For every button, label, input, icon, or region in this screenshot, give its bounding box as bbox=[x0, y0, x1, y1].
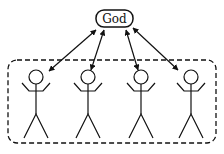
arrow-1 bbox=[49, 30, 96, 71]
person-2-icon bbox=[74, 70, 102, 138]
arrow-3 bbox=[126, 30, 138, 70]
god-node: God bbox=[96, 10, 133, 27]
god-people-diagram: God bbox=[0, 0, 224, 154]
arrow-2 bbox=[91, 30, 104, 70]
person-1-icon bbox=[22, 70, 50, 138]
person-4-icon bbox=[177, 70, 205, 138]
god-label: God bbox=[102, 12, 127, 26]
relationship-arrows bbox=[49, 28, 178, 71]
arrow-4 bbox=[133, 28, 178, 70]
person-3-icon bbox=[127, 70, 155, 138]
